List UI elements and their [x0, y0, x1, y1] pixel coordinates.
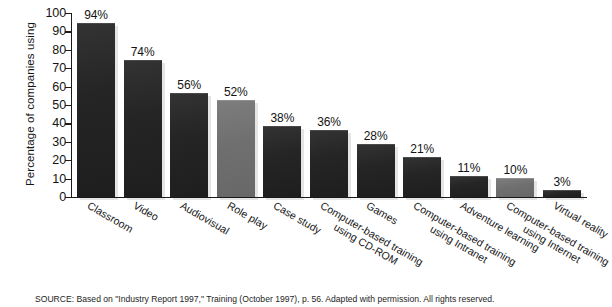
bar-group[interactable]: 11%: [450, 13, 488, 197]
x-category-label-line1: Audiovisual: [178, 200, 231, 237]
y-tick-label: 20: [28, 153, 66, 167]
bar-value-label: 52%: [224, 85, 248, 99]
bar-group[interactable]: 3%: [543, 13, 581, 197]
y-tick-mark: [65, 160, 72, 161]
x-category-label: Classroom: [85, 200, 135, 235]
x-category-label-line1: Video: [132, 200, 161, 223]
x-category-label: Role play: [225, 200, 269, 232]
y-tick-label: 60: [28, 80, 66, 94]
bar-value-label: 28%: [364, 129, 388, 143]
source-note: SOURCE: Based on "Industry Report 1997,"…: [35, 294, 583, 305]
bar-group[interactable]: 10%: [496, 13, 534, 197]
x-category-label-line1: Role play: [225, 200, 269, 232]
y-tick-mark: [65, 50, 72, 51]
bar[interactable]: [217, 100, 255, 197]
y-tick-mark: [65, 31, 72, 32]
bar-value-label: 74%: [131, 45, 155, 59]
bar[interactable]: [263, 126, 301, 197]
bar-value-label: 36%: [317, 115, 341, 129]
bar[interactable]: [496, 178, 534, 197]
x-category-label-line1: Classroom: [85, 200, 135, 235]
bar[interactable]: [543, 190, 581, 197]
bar-value-label: 3%: [553, 175, 570, 189]
bar-group[interactable]: 94%: [77, 13, 115, 197]
bar-value-label: 94%: [84, 8, 108, 22]
bar[interactable]: [310, 130, 348, 197]
y-tick-mark: [65, 105, 72, 106]
y-tick-label: 100: [28, 6, 66, 20]
bar-group[interactable]: 52%: [217, 13, 255, 197]
y-tick-label: 10: [28, 172, 66, 186]
bar[interactable]: [77, 23, 115, 197]
bar[interactable]: [450, 176, 488, 197]
bar[interactable]: [170, 93, 208, 197]
bar-value-label: 11%: [457, 161, 480, 175]
bar-value-label: 10%: [504, 163, 528, 177]
y-tick-label: 30: [28, 135, 66, 149]
bar-value-label: 38%: [271, 111, 295, 125]
y-tick-mark: [65, 197, 72, 198]
bar[interactable]: [403, 157, 441, 197]
y-tick-mark: [65, 87, 72, 88]
y-tick-mark: [65, 179, 72, 180]
y-tick-mark: [65, 68, 72, 69]
bar-group[interactable]: 36%: [310, 13, 348, 197]
x-category-label-line1: Games: [365, 200, 400, 227]
x-category-label: Audiovisual: [178, 200, 231, 237]
x-axis-category-labels: ClassroomVideoAudiovisualRole playCase s…: [0, 200, 593, 282]
y-axis-tick-labels: 1009080706050403020100: [28, 0, 66, 210]
y-tick-mark: [65, 123, 72, 124]
x-category-label: Video: [132, 200, 161, 223]
y-tick-label: 70: [28, 61, 66, 75]
y-tick-label: 50: [28, 98, 66, 112]
y-tick-label: 40: [28, 116, 66, 130]
bar-group[interactable]: 38%: [263, 13, 301, 197]
bar-group[interactable]: 74%: [124, 13, 162, 197]
y-tick-mark: [65, 13, 72, 14]
bar[interactable]: [357, 144, 395, 197]
bar-value-label: 21%: [410, 142, 434, 156]
bar[interactable]: [124, 60, 162, 197]
bar-group[interactable]: 56%: [170, 13, 208, 197]
bar-value-label: 56%: [177, 78, 201, 92]
y-tick-mark: [65, 142, 72, 143]
y-tick-label: 90: [28, 24, 66, 38]
x-category-label: Games: [365, 200, 400, 227]
bar-group[interactable]: 21%: [403, 13, 441, 197]
plot-area: 94%74%56%52%38%36%28%21%11%10%3%: [71, 13, 587, 197]
y-tick-label: 80: [28, 43, 66, 57]
bar-group[interactable]: 28%: [357, 13, 395, 197]
